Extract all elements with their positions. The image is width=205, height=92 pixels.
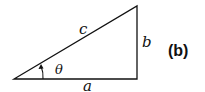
angle-label: θ <box>55 62 63 77</box>
panel-label: (b) <box>168 42 188 59</box>
vertical-side-label: b <box>142 33 152 51</box>
triangle-outline <box>14 6 137 79</box>
right-triangle-diagram: c b a θ (b) <box>0 0 205 92</box>
horizontal-side-label: a <box>83 77 92 92</box>
hypotenuse-label: c <box>79 20 88 38</box>
